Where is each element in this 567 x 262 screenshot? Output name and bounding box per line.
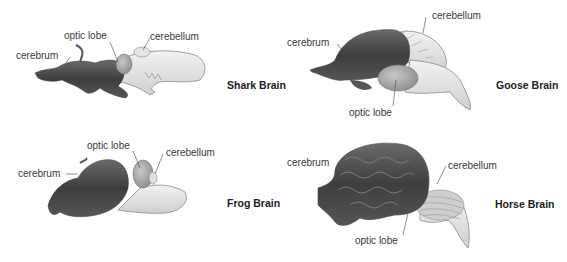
goose-brain-illustration xyxy=(310,17,471,110)
horse-cerebellum-label: cerebellum xyxy=(448,161,497,171)
frog-cerebrum-label: cerebrum xyxy=(18,169,60,179)
goose-cerebrum-leader xyxy=(337,44,342,50)
goose-optic-lobe-label: optic lobe xyxy=(349,108,392,118)
shark-cerebellum-label: cerebellum xyxy=(150,32,199,42)
goose-cerebellum-leader xyxy=(423,17,426,33)
shark-brain-title: Shark Brain xyxy=(227,80,286,91)
frog-cerebellum-label: cerebellum xyxy=(166,148,215,158)
goose-brain-title: Goose Brain xyxy=(496,80,558,91)
horse-optic-lobe-leader xyxy=(403,213,408,235)
horse-cerebellum-leader xyxy=(437,166,446,184)
goose-cerebellum-label: cerebellum xyxy=(432,11,481,21)
shark-cerebrum-label: cerebrum xyxy=(16,51,58,61)
frog-optic-lobe-label: optic lobe xyxy=(87,141,130,151)
shark-optic-lobe-label: optic lobe xyxy=(64,31,107,41)
frog-brain-title: Frog Brain xyxy=(227,198,280,209)
horse-brain-illustration xyxy=(318,143,469,248)
horse-cerebrum-label: cerebrum xyxy=(287,158,329,168)
frog-cerebellum-leader xyxy=(155,154,163,174)
horse-optic-lobe-label: optic lobe xyxy=(355,236,398,246)
horse-brain-title: Horse Brain xyxy=(495,199,555,210)
shark-brain-illustration xyxy=(35,38,205,98)
goose-cerebrum-label: cerebrum xyxy=(287,38,329,48)
frog-brain-illustration xyxy=(48,151,186,217)
shark-optic-lobe-leader xyxy=(110,42,118,62)
